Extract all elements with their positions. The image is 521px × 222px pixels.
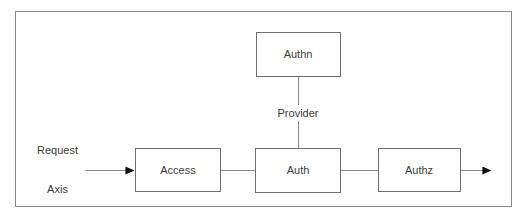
node-authz-label: Authz (405, 164, 433, 177)
node-auth-label: Auth (287, 164, 310, 177)
node-authn-label: Authn (284, 48, 313, 61)
request-axis-label: Request Axis (37, 118, 78, 222)
request-axis-line2: Axis (37, 183, 78, 196)
node-access-label: Access (160, 164, 195, 177)
request-axis-line1: Request (37, 144, 78, 157)
diagram-canvas: Authn Access Auth Authz Provider Request… (0, 0, 521, 222)
diagram-vector-layer (0, 0, 521, 222)
edge-label-provider: Provider (275, 106, 322, 121)
